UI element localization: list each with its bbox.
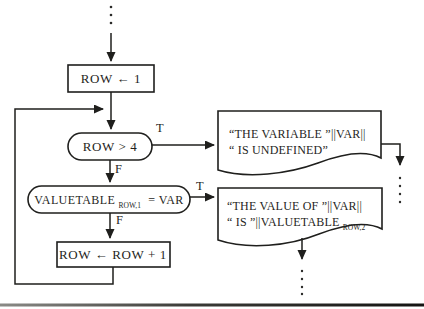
continuation-dots-right: [399, 177, 401, 203]
branch-false-label-row-test: F: [115, 162, 122, 176]
branch-true-label-row-test: T: [156, 121, 164, 135]
value-test-base: VALUETABLE: [34, 193, 115, 207]
edge-undefined-exit: [381, 144, 400, 165]
output-doc-value-line2-subscript: ROW,2: [343, 223, 366, 232]
output-doc-undefined-line2: “ IS UNDEFINED”: [229, 143, 328, 157]
branch-true-label-value-test: T: [196, 179, 204, 193]
output-doc-value-line2-base: “ IS ”||VALUETABLE: [227, 215, 340, 229]
output-doc-value-line1: “THE VALUE OF ”||VAR||: [227, 199, 362, 213]
branch-false-label-value-test: F: [116, 213, 123, 227]
continuation-dots-bottom: [301, 270, 303, 295]
value-test-comparison: = VAR: [148, 193, 183, 207]
continuation-dots-top: [110, 6, 113, 25]
page-rule: [0, 304, 424, 307]
decision-row-test-label: ROW > 4: [83, 139, 138, 154]
output-doc-undefined-line1: “THE VARIABLE ”||VAR||: [229, 127, 366, 141]
flowchart-canvas: ROW ← 1 ROW > 4 T F VALUETABLE ROW,1 = V…: [0, 0, 424, 309]
process-box-increment-label: ROW ← ROW + 1: [59, 247, 167, 262]
flowchart-page: ROW ← 1 ROW > 4 T F VALUETABLE ROW,1 = V…: [0, 0, 424, 309]
process-box-init-label: ROW ← 1: [81, 71, 141, 86]
value-test-subscript: ROW,1: [119, 201, 142, 210]
